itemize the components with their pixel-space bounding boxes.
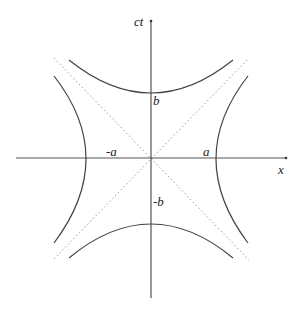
label-b: b (153, 93, 160, 108)
label-neg-b: -b (153, 194, 164, 209)
hyperbola-right-branch (216, 76, 248, 243)
label-neg-a: -a (106, 144, 117, 159)
hyperbola-left-branch (54, 76, 86, 243)
x-axis-label: x (277, 162, 284, 177)
ct-axis-arrow-icon (150, 20, 153, 23)
x-axis-arrow-icon (285, 157, 288, 160)
label-a: a (203, 144, 210, 159)
hyperbola-diagram: ct x b -b -a a (0, 0, 302, 314)
ct-axis-label: ct (134, 14, 144, 29)
